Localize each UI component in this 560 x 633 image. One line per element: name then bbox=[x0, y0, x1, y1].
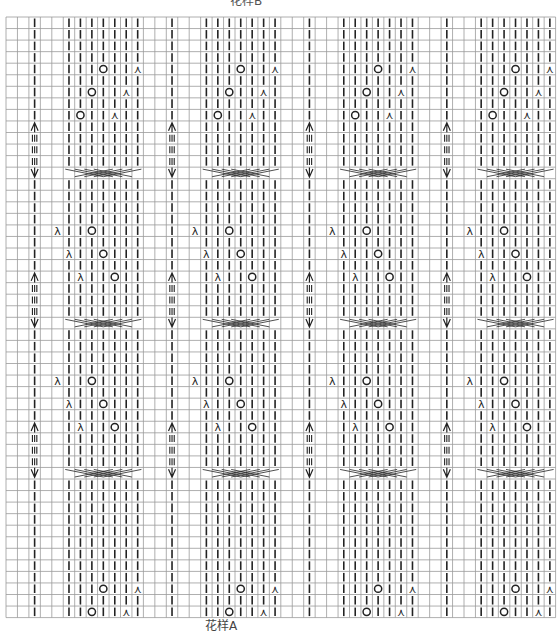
decrease-icon: λ bbox=[54, 375, 61, 388]
yarn-over-icon bbox=[226, 88, 233, 95]
cable-v-icon bbox=[306, 318, 313, 328]
decrease-icon: λ bbox=[203, 248, 210, 261]
cable-v-icon bbox=[306, 468, 313, 478]
cable-v-icon bbox=[169, 468, 176, 478]
cable-v-icon bbox=[443, 167, 450, 177]
decrease-icon: ⋏ bbox=[260, 606, 268, 619]
yarn-over-icon bbox=[249, 423, 256, 430]
yarn-over-icon bbox=[237, 65, 244, 72]
cable-arrow-icon bbox=[169, 273, 176, 283]
cable-v-icon bbox=[443, 318, 450, 328]
cable-v-icon bbox=[306, 167, 313, 177]
decrease-icon: λ bbox=[215, 271, 222, 284]
decrease-icon: ⋏ bbox=[111, 109, 119, 122]
cable-arrow-icon bbox=[31, 423, 38, 433]
cable-arrow-icon bbox=[306, 273, 313, 283]
cable-arrow-icon bbox=[306, 423, 313, 433]
yarn-over-icon bbox=[111, 423, 118, 430]
cable-v-icon bbox=[443, 468, 450, 478]
yarn-over-icon bbox=[77, 112, 84, 119]
decrease-icon: λ bbox=[215, 421, 222, 434]
decrease-icon: ⋏ bbox=[546, 63, 554, 76]
yarn-over-icon bbox=[214, 112, 221, 119]
yarn-over-icon bbox=[386, 423, 393, 430]
yarn-over-icon bbox=[352, 112, 359, 119]
yarn-over-icon bbox=[249, 273, 256, 280]
cable-arrow-icon bbox=[443, 423, 450, 433]
yarn-over-icon bbox=[226, 608, 233, 615]
yarn-over-icon bbox=[512, 65, 519, 72]
decrease-icon: ⋏ bbox=[408, 63, 416, 76]
decrease-icon: λ bbox=[466, 225, 473, 238]
cable-v-icon bbox=[31, 167, 38, 177]
cable-arrow-icon bbox=[169, 123, 176, 133]
cable-arrow-icon bbox=[306, 123, 313, 133]
yarn-over-icon bbox=[363, 608, 370, 615]
cable-arrow-icon bbox=[31, 273, 38, 283]
yarn-over-icon bbox=[523, 273, 530, 280]
decrease-icon: λ bbox=[478, 248, 485, 261]
cable-arrow-icon bbox=[169, 423, 176, 433]
yarn-over-icon bbox=[100, 585, 107, 592]
yarn-over-icon bbox=[88, 227, 95, 234]
decrease-icon: ⋏ bbox=[134, 63, 142, 76]
decrease-icon: λ bbox=[66, 248, 73, 261]
yarn-over-icon bbox=[226, 227, 233, 234]
chart-title-bottom: 花样A bbox=[205, 616, 237, 633]
decrease-icon: ⋏ bbox=[260, 86, 268, 99]
decrease-icon: λ bbox=[77, 421, 84, 434]
decrease-icon: ⋏ bbox=[397, 86, 405, 99]
decrease-icon: ⋏ bbox=[397, 606, 405, 619]
decrease-icon: ⋏ bbox=[534, 86, 542, 99]
cable-v-icon bbox=[169, 318, 176, 328]
decrease-icon: λ bbox=[341, 398, 348, 411]
yarn-over-icon bbox=[363, 377, 370, 384]
yarn-over-icon bbox=[237, 250, 244, 257]
yarn-over-icon bbox=[500, 88, 507, 95]
decrease-icon: ⋏ bbox=[122, 606, 130, 619]
yarn-over-icon bbox=[500, 377, 507, 384]
decrease-icon: λ bbox=[329, 225, 336, 238]
decrease-icon: λ bbox=[489, 421, 496, 434]
yarn-over-icon bbox=[375, 585, 382, 592]
decrease-icon: λ bbox=[77, 271, 84, 284]
decrease-icon: λ bbox=[329, 375, 336, 388]
decrease-icon: λ bbox=[192, 375, 199, 388]
yarn-over-icon bbox=[88, 608, 95, 615]
decrease-icon: λ bbox=[341, 248, 348, 261]
yarn-over-icon bbox=[111, 273, 118, 280]
decrease-icon: ⋏ bbox=[271, 583, 279, 596]
yarn-over-icon bbox=[512, 585, 519, 592]
decrease-icon: λ bbox=[478, 398, 485, 411]
yarn-over-icon bbox=[489, 112, 496, 119]
yarn-over-icon bbox=[100, 250, 107, 257]
decrease-icon: λ bbox=[66, 398, 73, 411]
decrease-icon: ⋏ bbox=[523, 109, 531, 122]
cable-arrow-icon bbox=[443, 123, 450, 133]
cable-arrow-icon bbox=[31, 123, 38, 133]
yarn-over-icon bbox=[226, 377, 233, 384]
decrease-icon: ⋏ bbox=[546, 583, 554, 596]
yarn-over-icon bbox=[100, 65, 107, 72]
yarn-over-icon bbox=[237, 400, 244, 407]
decrease-icon: ⋏ bbox=[386, 109, 394, 122]
decrease-icon: λ bbox=[54, 225, 61, 238]
decrease-icon: ⋏ bbox=[122, 86, 130, 99]
decrease-icon: ⋏ bbox=[408, 583, 416, 596]
yarn-over-icon bbox=[500, 227, 507, 234]
yarn-over-icon bbox=[88, 377, 95, 384]
yarn-over-icon bbox=[88, 88, 95, 95]
cable-v-icon bbox=[169, 167, 176, 177]
yarn-over-icon bbox=[363, 88, 370, 95]
cable-arrow-icon bbox=[443, 273, 450, 283]
yarn-over-icon bbox=[237, 585, 244, 592]
decrease-icon: ⋏ bbox=[534, 606, 542, 619]
cable-v-icon bbox=[31, 318, 38, 328]
yarn-over-icon bbox=[375, 400, 382, 407]
yarn-over-icon bbox=[363, 227, 370, 234]
yarn-over-icon bbox=[386, 273, 393, 280]
decrease-icon: ⋏ bbox=[248, 109, 256, 122]
yarn-over-icon bbox=[512, 250, 519, 257]
yarn-over-icon bbox=[500, 608, 507, 615]
decrease-icon: ⋏ bbox=[271, 63, 279, 76]
